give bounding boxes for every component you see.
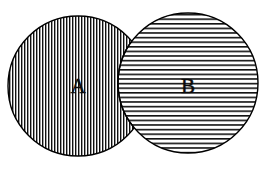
venn-diagram-figure: A B: [0, 0, 263, 169]
set-b-label: B: [181, 74, 195, 98]
venn-diagram-canvas: A B: [0, 0, 263, 169]
set-a-label: A: [70, 74, 86, 98]
